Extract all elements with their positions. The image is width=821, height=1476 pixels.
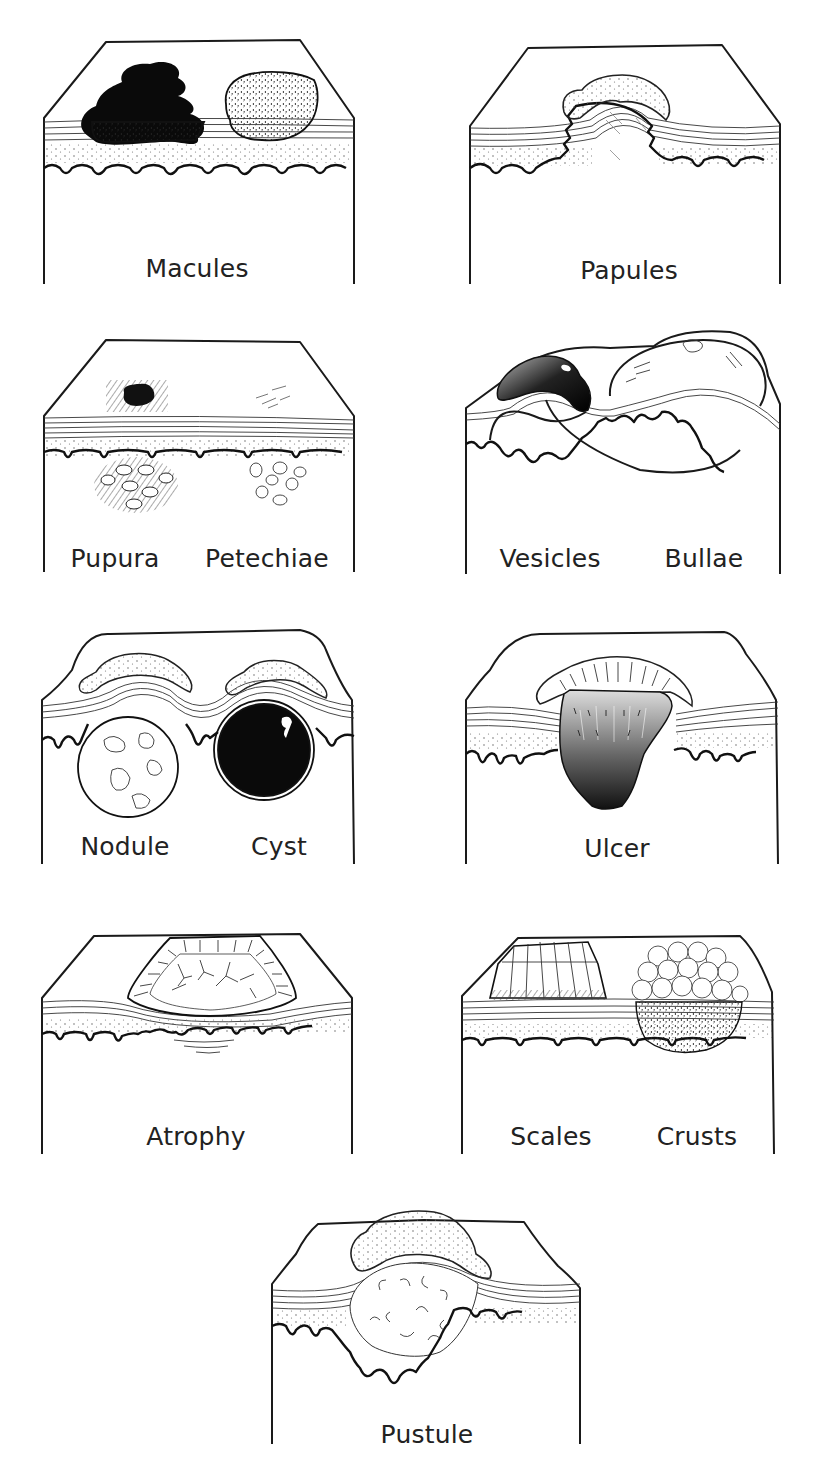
panel-ulcer: Ulcer <box>410 610 821 880</box>
label-petechiae: Petechiae <box>205 544 329 573</box>
label-vesicles: Vesicles <box>499 544 600 573</box>
panel-atrophy: Atrophy <box>0 910 410 1170</box>
vesicles-bullae-illustration <box>410 320 821 590</box>
label-scales: Scales <box>510 1122 592 1151</box>
label-crusts: Crusts <box>657 1122 738 1151</box>
label-bullae: Bullae <box>665 544 744 573</box>
label-macules: Macules <box>145 254 248 283</box>
label-atrophy: Atrophy <box>146 1122 245 1151</box>
panel-macules: Macules <box>0 0 410 300</box>
panel-papules: Papules <box>410 0 821 300</box>
label-nodule: Nodule <box>80 832 169 861</box>
scales-crusts-illustration <box>410 910 821 1170</box>
nodule-cyst-illustration <box>0 610 410 880</box>
panel-vesicles-bullae: Vesicles Bullae <box>410 320 821 590</box>
label-pustule: Pustule <box>381 1420 474 1449</box>
label-cyst: Cyst <box>251 832 307 861</box>
panel-nodule-cyst: Nodule Cyst <box>0 610 410 880</box>
panel-scales-crusts: Scales Crusts <box>410 910 821 1170</box>
panel-pustule: Pustule <box>240 1180 600 1476</box>
label-papules: Papules <box>580 256 678 285</box>
label-ulcer: Ulcer <box>584 834 650 863</box>
panel-purpura-petechiae: Pupura Petechiae <box>0 320 410 590</box>
label-purpura: Pupura <box>71 544 160 573</box>
papules-illustration <box>410 0 821 300</box>
